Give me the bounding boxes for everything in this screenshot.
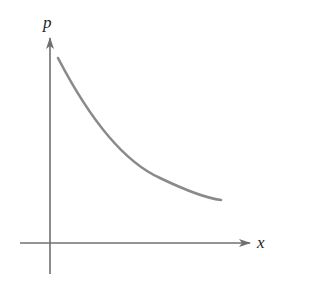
x-axis-label: x: [256, 233, 265, 252]
y-axis-label: p: [42, 13, 52, 32]
demand-curve: [58, 58, 221, 200]
chart-canvas: p x: [0, 0, 310, 293]
